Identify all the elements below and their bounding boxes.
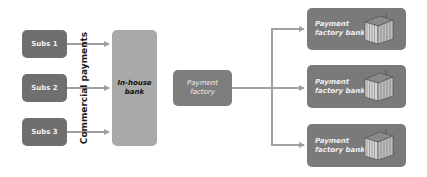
in-house-bank-box: In-house bank (112, 30, 157, 146)
payment-factory-line2: factory (190, 88, 215, 97)
bank-building-icon (362, 12, 396, 46)
subs-3-box: Subs 3 (22, 118, 67, 146)
payment-factory-bank-3: Paymentfactory bank (307, 124, 406, 167)
subs-1-label: Subs 1 (31, 40, 58, 48)
bank-building-icon (362, 128, 396, 162)
payment-factory-bank-1: Paymentfactory bank (307, 8, 406, 50)
subs-2-label: Subs 2 (31, 84, 58, 92)
subs-2-box: Subs 2 (22, 74, 67, 102)
bank-building-icon (362, 69, 396, 103)
payment-factory-line1: Payment (187, 79, 218, 88)
bank-2-line2: factory bank (315, 87, 365, 96)
in-house-bank-line1: In-house (117, 79, 151, 88)
subs-1-box: Subs 1 (22, 30, 67, 58)
bank-2-line1: Payment (315, 78, 365, 87)
commercial-payments-label: Commercial payments (79, 32, 89, 144)
bank-3-line1: Payment (315, 137, 365, 146)
payment-factory-box: Payment factory (173, 70, 232, 106)
payment-factory-bank-2: Paymentfactory bank (307, 65, 406, 108)
bank-1-line1: Payment (315, 20, 365, 29)
bank-3-line2: factory bank (315, 146, 365, 155)
in-house-bank-line2: bank (125, 88, 144, 97)
subs-3-label: Subs 3 (31, 128, 58, 136)
bank-1-line2: factory bank (315, 29, 365, 38)
